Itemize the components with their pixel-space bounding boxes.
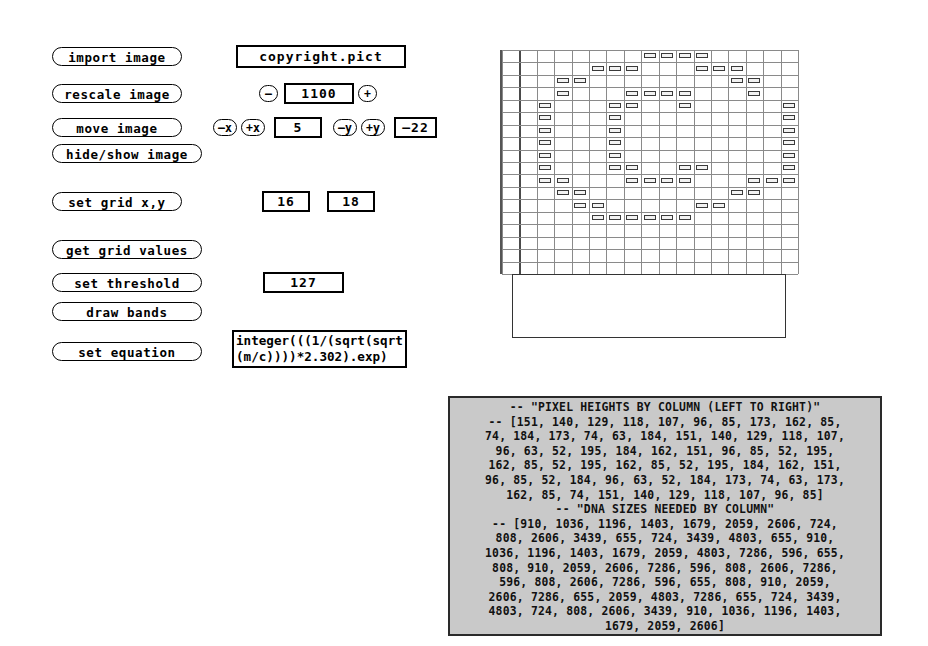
console-line: 1679, 2059, 2606] xyxy=(453,619,877,634)
grid-band xyxy=(731,66,743,71)
set-equation-button[interactable]: set equation xyxy=(52,342,202,361)
grid-band xyxy=(626,178,638,183)
grid-horizontal-line xyxy=(502,112,798,113)
move-image-button[interactable]: move image xyxy=(52,118,182,137)
grid-horizontal-line xyxy=(502,50,798,51)
grid-band xyxy=(679,178,691,183)
grid-band xyxy=(748,78,760,83)
grid-band xyxy=(592,215,604,220)
move-minus-y-button[interactable]: –y xyxy=(333,119,357,136)
grid-band xyxy=(783,165,795,170)
grid-horizontal-line xyxy=(502,87,798,88)
grid-preview-canvas[interactable] xyxy=(500,50,798,274)
grid-horizontal-line xyxy=(502,62,798,63)
move-x-value-field[interactable]: 5 xyxy=(274,117,322,138)
grid-band xyxy=(783,103,795,108)
console-line: 1036, 1196, 1403, 1679, 2059, 4803, 7286… xyxy=(453,546,877,561)
hide-show-image-button[interactable]: hide/show image xyxy=(52,144,202,163)
console-line: -- "PIXEL HEIGHTS BY COLUMN (LEFT TO RIG… xyxy=(453,400,877,415)
grid-horizontal-line xyxy=(502,262,798,263)
grid-horizontal-line xyxy=(502,187,798,188)
grid-band xyxy=(557,91,569,96)
grid-band xyxy=(696,203,708,208)
grid-band xyxy=(644,178,656,183)
grid-x-field[interactable]: 16 xyxy=(262,191,310,212)
move-minus-x-button[interactable]: –x xyxy=(213,119,237,136)
grid-band xyxy=(748,190,760,195)
grid-horizontal-line xyxy=(502,212,798,213)
grid-band xyxy=(539,178,551,183)
console-line: 596, 808, 2606, 7286, 596, 655, 808, 910… xyxy=(453,575,877,590)
grid-band xyxy=(731,78,743,83)
grid-band xyxy=(626,165,638,170)
import-image-button[interactable]: import image xyxy=(52,47,182,66)
grid-band xyxy=(661,53,673,58)
grid-horizontal-line xyxy=(502,75,798,76)
grid-y-field[interactable]: 18 xyxy=(327,191,375,212)
grid-band xyxy=(557,78,569,83)
grid-band xyxy=(574,203,586,208)
grid-band xyxy=(539,128,551,133)
grid-horizontal-line xyxy=(502,249,798,250)
grid-band xyxy=(679,215,691,220)
equation-field[interactable]: integer(((1/(sqrt(sqrt(m/c))))*2.302).ex… xyxy=(232,330,407,368)
get-grid-values-button[interactable]: get grid values xyxy=(52,240,202,259)
image-preview-box xyxy=(512,274,786,338)
console-line: 96, 63, 52, 195, 184, 162, 151, 96, 85, … xyxy=(453,444,877,459)
grid-band xyxy=(557,178,569,183)
grid-horizontal-line xyxy=(502,237,798,238)
move-plus-y-button[interactable]: +y xyxy=(361,119,385,136)
set-grid-button[interactable]: set grid x,y xyxy=(52,192,182,211)
grid-band xyxy=(696,165,708,170)
grid-band xyxy=(574,78,586,83)
grid-band xyxy=(679,53,691,58)
grid-band xyxy=(609,215,621,220)
grid-band xyxy=(679,165,691,170)
grid-band xyxy=(748,178,760,183)
grid-band xyxy=(539,153,551,158)
grid-band xyxy=(713,203,725,208)
grid-band xyxy=(609,115,621,120)
console-line: 96, 85, 52, 184, 96, 63, 52, 184, 173, 7… xyxy=(453,473,877,488)
grid-band xyxy=(626,103,638,108)
console-line: 808, 2606, 3439, 655, 724, 3439, 4803, 6… xyxy=(453,531,877,546)
grid-horizontal-line xyxy=(502,125,798,126)
scale-value-field[interactable]: 1100 xyxy=(284,83,354,104)
grid-horizontal-line xyxy=(502,150,798,151)
scale-decrement-button[interactable]: – xyxy=(259,85,278,102)
filename-field[interactable]: copyright.pict xyxy=(236,45,406,68)
rescale-image-button[interactable]: rescale image xyxy=(52,84,182,103)
set-threshold-button[interactable]: set threshold xyxy=(52,273,202,292)
scale-increment-button[interactable]: + xyxy=(358,85,377,102)
grid-horizontal-line xyxy=(502,137,798,138)
grid-band xyxy=(539,165,551,170)
grid-band xyxy=(609,66,621,71)
grid-band xyxy=(783,178,795,183)
grid-band xyxy=(574,190,586,195)
grid-band xyxy=(539,115,551,120)
grid-band xyxy=(557,190,569,195)
grid-band xyxy=(644,91,656,96)
console-output: -- "PIXEL HEIGHTS BY COLUMN (LEFT TO RIG… xyxy=(448,396,882,636)
move-y-value-field[interactable]: –22 xyxy=(394,117,437,138)
grid-band xyxy=(731,190,743,195)
console-line: 74, 184, 173, 74, 63, 184, 151, 140, 129… xyxy=(453,429,877,444)
move-plus-x-button[interactable]: +x xyxy=(241,119,265,136)
grid-band xyxy=(609,128,621,133)
grid-band xyxy=(609,153,621,158)
draw-bands-button[interactable]: draw bands xyxy=(52,302,202,321)
grid-band xyxy=(609,165,621,170)
grid-band xyxy=(626,215,638,220)
grid-band xyxy=(679,103,691,108)
grid-band xyxy=(766,178,778,183)
grid-vertical-line xyxy=(798,50,799,274)
grid-band xyxy=(783,153,795,158)
grid-horizontal-line xyxy=(502,199,798,200)
threshold-field[interactable]: 127 xyxy=(263,272,344,293)
grid-band xyxy=(609,140,621,145)
grid-band xyxy=(783,140,795,145)
console-line: -- [910, 1036, 1196, 1403, 1679, 2059, 2… xyxy=(453,517,877,532)
grid-band xyxy=(539,140,551,145)
grid-horizontal-line xyxy=(502,174,798,175)
console-line: -- "DNA SIZES NEEDED BY COLUMN" xyxy=(453,502,877,517)
